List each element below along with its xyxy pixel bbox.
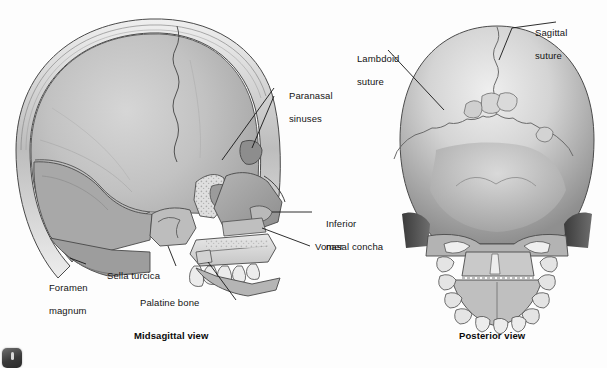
label-sagittal-suture: Sagittal suture [524, 15, 567, 73]
label-paranasal-sinuses: Paranasal sinuses [278, 78, 333, 136]
midsagittal-skull [16, 19, 285, 296]
app-icon[interactable] [2, 348, 22, 368]
wormian-bone-2 [464, 101, 482, 118]
label-sella-turcica: Sella turcica [107, 270, 160, 282]
leader-sella-turcica [168, 246, 176, 266]
wormian-bone-3 [497, 93, 517, 111]
label-palatine-bone: Palatine bone [140, 297, 199, 309]
caption-posterior: Posterior view [459, 330, 525, 341]
label-inferior-nasal-concha: Inferior nasal concha [315, 206, 383, 264]
palatine-bone-shape [196, 250, 212, 264]
label-foramen-magnum: Foramen magnum [38, 270, 88, 328]
label-vomer: Vomer [315, 241, 343, 253]
sphenoid-body [150, 208, 196, 246]
maxilla-spongy [206, 240, 268, 248]
label-lambdoid-suture: Lambdoid suture [346, 41, 400, 99]
dens [490, 254, 500, 274]
caption-midsagittal: Midsagittal view [134, 330, 208, 341]
